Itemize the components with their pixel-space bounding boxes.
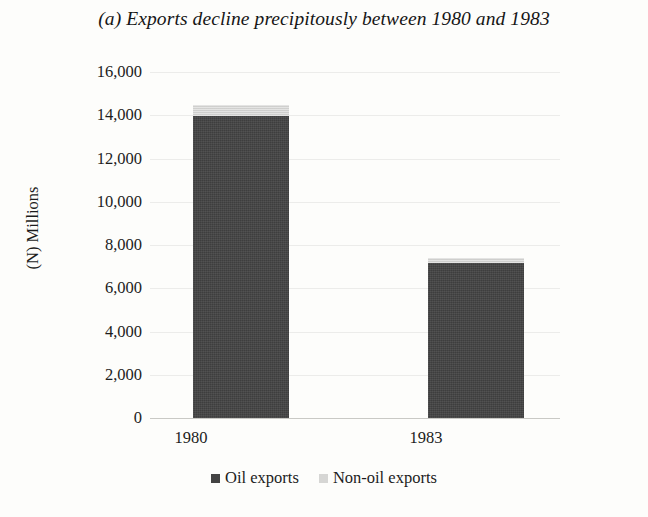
- zero-axis-line: [150, 418, 560, 419]
- y-tick-label: 8,000: [70, 235, 142, 255]
- figure-panel-a: (a) Exports decline precipitously betwee…: [0, 0, 648, 517]
- legend-item-oil-exports: Oil exports: [211, 468, 299, 488]
- legend-swatch-icon-oil: [211, 474, 220, 483]
- legend-swatch-icon-non-oil: [319, 474, 328, 483]
- y-tick-label: 16,000: [70, 62, 142, 82]
- plot-area: [150, 72, 560, 418]
- bar-segment-oil-1983: [428, 263, 524, 418]
- bar-segment-non-oil-1980: [193, 105, 289, 116]
- x-tick-label-1980: 1980: [121, 428, 261, 448]
- y-tick-label: 6,000: [70, 278, 142, 298]
- chart-title: (a) Exports decline precipitously betwee…: [0, 8, 648, 30]
- legend-item-non-oil-exports: Non-oil exports: [319, 468, 437, 488]
- x-tick-label-1983: 1983: [356, 428, 496, 448]
- y-tick-label: 10,000: [70, 192, 142, 212]
- y-tick-label: 2,000: [70, 365, 142, 385]
- y-tick-label: 14,000: [70, 105, 142, 125]
- gridline: [150, 72, 560, 73]
- y-tick-label: 0: [70, 408, 142, 428]
- legend-label-non-oil: Non-oil exports: [333, 468, 437, 488]
- bar-segment-oil-1980: [193, 116, 289, 418]
- y-axis-title: (N) Millions: [23, 133, 43, 323]
- y-tick-label: 4,000: [70, 322, 142, 342]
- chart-legend: Oil exports Non-oil exports: [0, 468, 648, 488]
- y-axis-tick-labels: 16,000 14,000 12,000 10,000 8,000 6,000 …: [60, 72, 142, 418]
- legend-label-oil: Oil exports: [225, 468, 299, 488]
- bar-segment-non-oil-1983: [428, 258, 524, 263]
- y-tick-label: 12,000: [70, 149, 142, 169]
